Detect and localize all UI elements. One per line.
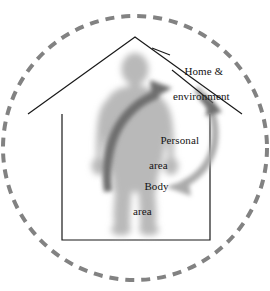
label-personal-area-line1: Personal	[160, 134, 199, 146]
label-home-environment-line2: environment	[173, 90, 230, 103]
label-body-area: Body area	[133, 167, 169, 242]
exposure-areas-figure: Home & environment Personal area Body ar…	[0, 0, 270, 291]
label-home-environment: Home & environment	[173, 52, 230, 127]
diagram-canvas	[0, 0, 270, 291]
label-home-environment-line1: Home &	[184, 65, 223, 77]
label-body-area-line1: Body	[144, 180, 168, 192]
label-body-area-line2: area	[133, 205, 169, 218]
